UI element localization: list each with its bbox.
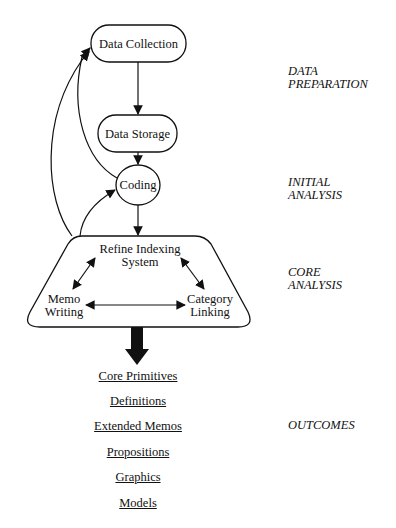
stage-initial-analysis: INITIAL ANALYSIS	[288, 176, 342, 202]
node-data-collection: Data Collection	[91, 25, 186, 62]
outcome-item: Models	[0, 496, 276, 511]
node-category-linking-label-2: Linking	[190, 305, 230, 319]
node-refine-indexing-label-1: Refine Indexing	[100, 242, 182, 256]
node-memo-writing-label-1: Memo	[48, 292, 81, 306]
node-data-collection-label: Data Collection	[99, 37, 179, 51]
node-memo-writing-label-2: Writing	[45, 305, 84, 319]
feedback-arrow-core-to-collection	[51, 52, 89, 236]
outcome-item: Extended Memos	[0, 419, 276, 434]
outcome-item: Definitions	[0, 394, 276, 409]
outcome-item: Graphics	[0, 470, 276, 485]
stage-outcomes: OUTCOMES	[288, 419, 355, 432]
outcome-item: Propositions	[0, 445, 276, 460]
feedback-arrow-core-to-coding	[80, 190, 115, 236]
stage-data-preparation: DATA PREPARATION	[288, 65, 368, 91]
outcome-item: Core Primitives	[0, 369, 276, 384]
feedback-arrow-coding-to-collection	[78, 48, 117, 178]
node-category-linking-label-1: Category	[187, 292, 234, 306]
node-data-storage: Data Storage	[98, 115, 177, 152]
node-data-storage-label: Data Storage	[105, 127, 170, 141]
stage-core-analysis: CORE ANALYSIS	[288, 266, 342, 292]
arrow-core-to-outcomes	[125, 327, 149, 365]
node-coding: Coding	[116, 165, 160, 205]
node-coding-label: Coding	[120, 178, 158, 192]
node-refine-indexing-label-2: System	[122, 255, 159, 269]
